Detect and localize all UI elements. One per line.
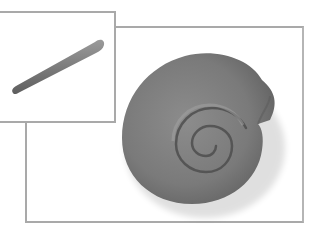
clay-coil — [0, 0, 120, 125]
